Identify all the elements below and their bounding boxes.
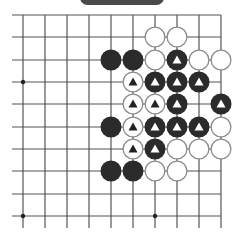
- white-stone[interactable]: [123, 94, 143, 114]
- black-stone[interactable]: [167, 50, 188, 71]
- white-stone[interactable]: [189, 50, 209, 70]
- white-stone[interactable]: [167, 27, 187, 47]
- star-point: [21, 80, 25, 84]
- white-stone[interactable]: [145, 50, 165, 70]
- star-point: [153, 214, 157, 218]
- black-stone[interactable]: [167, 94, 188, 115]
- white-stone[interactable]: [167, 139, 187, 159]
- black-stone[interactable]: [145, 139, 166, 160]
- white-stone[interactable]: [211, 117, 231, 137]
- white-stone[interactable]: [189, 139, 209, 159]
- black-stone[interactable]: [145, 117, 166, 138]
- white-stone[interactable]: [123, 117, 143, 137]
- white-stone[interactable]: [145, 161, 165, 181]
- black-stone[interactable]: [145, 72, 166, 93]
- black-stone[interactable]: [189, 117, 210, 138]
- white-stone[interactable]: [211, 139, 231, 159]
- white-stone[interactable]: [123, 72, 143, 92]
- black-stone[interactable]: [123, 161, 144, 182]
- white-stone[interactable]: [167, 161, 187, 181]
- black-stone[interactable]: [167, 72, 188, 93]
- white-stone[interactable]: [145, 94, 165, 114]
- black-stone[interactable]: [211, 94, 232, 115]
- white-stone[interactable]: [123, 139, 143, 159]
- go-board[interactable]: [0, 0, 239, 235]
- black-stone[interactable]: [189, 72, 210, 93]
- white-stone[interactable]: [145, 27, 165, 47]
- white-stone[interactable]: [211, 50, 231, 70]
- black-stone[interactable]: [101, 161, 122, 182]
- black-stone[interactable]: [101, 117, 122, 138]
- star-point: [21, 214, 25, 218]
- black-stone[interactable]: [123, 50, 144, 71]
- black-stone[interactable]: [101, 50, 122, 71]
- black-stone[interactable]: [167, 117, 188, 138]
